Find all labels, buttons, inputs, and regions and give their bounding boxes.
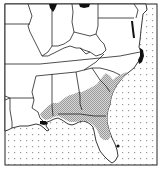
range-map xyxy=(0,0,161,171)
record-florida xyxy=(116,144,119,147)
